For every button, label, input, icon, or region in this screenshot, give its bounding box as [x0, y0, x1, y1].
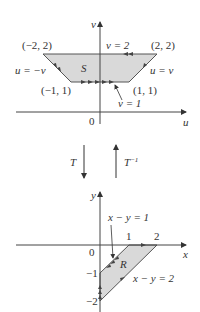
label-u-eq-v: u = v	[150, 64, 173, 76]
tick-y-neg2: −2	[86, 295, 98, 307]
label-v-eq-2: v = 2	[106, 39, 130, 51]
bottom-panel: y x 0 1 2 −1 −2 R x − y = 1 x − y = 2	[16, 189, 188, 312]
y-axis-label: y	[90, 189, 96, 201]
transform-arrows: T T−1	[70, 145, 138, 178]
region-s-label: S	[81, 62, 87, 74]
label-x-minus-y-2: x − y = 2	[132, 272, 175, 284]
vertex-1-1: (1, 1)	[133, 84, 157, 97]
vertex-neg1-1: (−1, 1)	[41, 84, 71, 97]
origin-label-xy: 0	[89, 246, 95, 258]
top-panel: v u 0 S (−2, 2) (2, 2) (−1, 1) (1, 1) v …	[15, 18, 189, 128]
tick-y-neg1: −1	[86, 267, 98, 279]
t-inverse-label: T−1	[124, 156, 138, 168]
xy1-pointer	[111, 225, 113, 258]
vertex-2-2: (2, 2)	[151, 39, 175, 52]
vertex-neg2-2: (−2, 2)	[22, 39, 52, 52]
origin-label: 0	[89, 115, 95, 127]
v-axis-label: v	[91, 18, 96, 30]
label-u-eq-neg-v: u = −v	[15, 64, 46, 76]
region-r-label: R	[119, 258, 127, 270]
t-label: T	[70, 156, 77, 168]
label-x-minus-y-1: x − y = 1	[107, 211, 149, 223]
tick-x-2: 2	[154, 230, 160, 242]
x-axis-label: x	[182, 248, 188, 260]
u-axis-label: u	[183, 116, 189, 128]
diagram-canvas: v u 0 S (−2, 2) (2, 2) (−1, 1) (1, 1) v …	[0, 0, 200, 312]
label-v-eq-1: v = 1	[118, 97, 141, 109]
tick-x-1: 1	[126, 230, 132, 242]
